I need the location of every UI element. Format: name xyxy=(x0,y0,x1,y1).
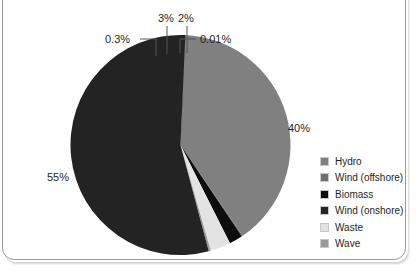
legend-item-label: Wave xyxy=(335,238,360,249)
legend-item[interactable]: Wave xyxy=(320,236,420,253)
legend-item-label: Wind (offshore) xyxy=(335,172,403,183)
legend-item[interactable]: Biomass xyxy=(320,186,420,203)
legend-swatch-icon xyxy=(320,223,329,232)
legend-swatch-icon xyxy=(320,239,329,248)
slice-label-waste: 3% xyxy=(158,12,174,24)
slice-label-wave: 0.3% xyxy=(105,33,130,45)
slice-label-biomass: 2% xyxy=(178,12,194,24)
legend-swatch-icon xyxy=(320,190,329,199)
legend-item-label: Biomass xyxy=(335,189,373,200)
pie-chart: Hydro 40%Wind (offshore) 0.01%Biomass 2%… xyxy=(0,0,420,273)
legend-item[interactable]: Waste xyxy=(320,219,420,236)
legend-item[interactable]: Wind (onshore) xyxy=(320,203,420,220)
slice-label-wind-offshore: 0.01% xyxy=(200,33,231,45)
chart-legend: HydroWind (offshore)BiomassWind (onshore… xyxy=(320,153,420,252)
legend-item-label: Waste xyxy=(335,222,363,233)
legend-item-label: Wind (onshore) xyxy=(335,205,403,216)
legend-swatch-icon xyxy=(320,206,329,215)
legend-item-label: Hydro xyxy=(335,156,362,167)
pie-slice-group: Hydro 40%Wind (offshore) 0.01%Biomass 2%… xyxy=(70,35,290,255)
slice-label-hydro: 40% xyxy=(288,122,310,134)
legend-swatch-icon xyxy=(320,157,329,166)
legend-item[interactable]: Wind (offshore) xyxy=(320,170,420,187)
legend-item[interactable]: Hydro xyxy=(320,153,420,170)
legend-swatch-icon xyxy=(320,173,329,182)
slice-label-wind-onshore: 55% xyxy=(47,171,69,183)
